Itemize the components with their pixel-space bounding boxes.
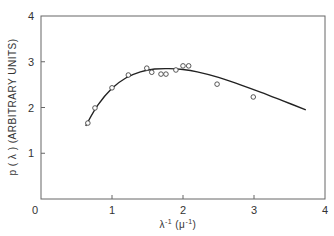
open-circle-marker: [86, 121, 91, 126]
x-tick-label: 3: [251, 204, 257, 216]
open-circle-marker: [215, 82, 220, 87]
open-circle-marker: [126, 73, 131, 78]
y-axis-title: p ( λ ) (ARBITRARY UNITS): [7, 38, 18, 175]
open-circle-marker: [110, 86, 115, 91]
x-axis-title: λ-1(μ-1): [160, 218, 197, 230]
data-points: [86, 64, 256, 126]
open-circle-marker: [149, 70, 154, 75]
open-circle-marker: [186, 64, 191, 69]
y-tick-label: 4: [28, 10, 34, 22]
y-tick-label: 3: [28, 56, 34, 68]
open-circle-marker: [181, 64, 186, 69]
y-tick-label: 1: [28, 147, 34, 159]
open-circle-marker: [159, 72, 164, 77]
y-tick-label: 2: [28, 102, 34, 114]
open-circle-marker: [174, 68, 179, 73]
open-circle-marker: [164, 72, 169, 77]
fit-line: [86, 69, 306, 126]
x-tick-label: 1: [109, 204, 115, 216]
x-tick-labels: 01234: [32, 204, 328, 216]
fit-curve: [86, 69, 306, 126]
open-circle-marker: [251, 95, 256, 100]
chart: 01234 1234 λ-1(μ-1) p ( λ ) (ARBITRARY U…: [0, 0, 334, 236]
plot-frame: [41, 16, 325, 199]
x-tick-label: 2: [180, 204, 186, 216]
y-tick-labels: 1234: [28, 10, 34, 159]
x-tick-label: 4: [322, 204, 328, 216]
x-tick-label: 0: [32, 204, 38, 216]
axis-ticks: [41, 62, 254, 199]
open-circle-marker: [93, 106, 98, 111]
open-circle-marker: [144, 66, 149, 71]
